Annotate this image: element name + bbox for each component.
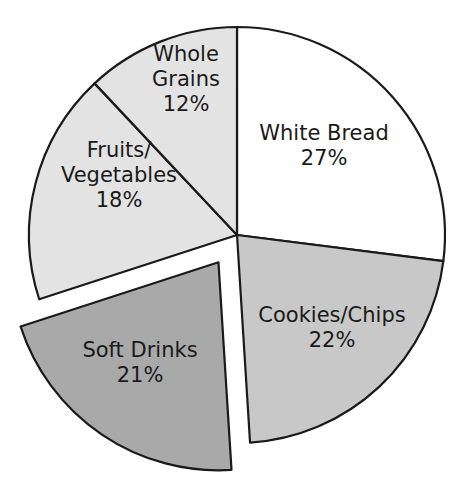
pie-slices — [21, 27, 445, 470]
pie-chart: White Bread27%Cookies/Chips22%Soft Drink… — [0, 0, 469, 500]
